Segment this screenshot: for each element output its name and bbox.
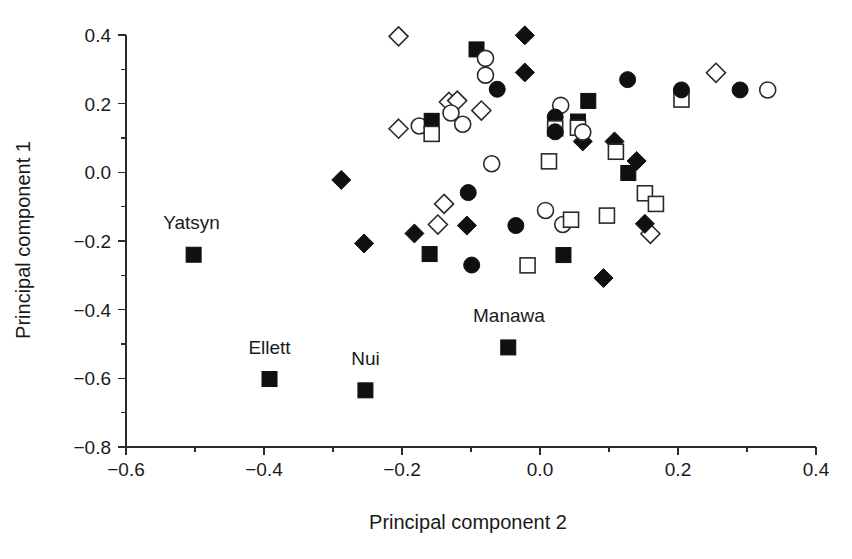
point-label: Manawa: [473, 305, 545, 326]
data-point-filled-diamond: [355, 234, 374, 253]
x-tick-label: −0.2: [383, 459, 421, 480]
data-point-filled-square: [358, 383, 373, 398]
plot-canvas: −0.6−0.4−0.20.00.20.4−0.8−0.6−0.4−0.20.0…: [0, 0, 852, 559]
point-label: Nui: [351, 348, 380, 369]
data-point-filled-diamond: [332, 170, 351, 189]
data-point-filled-diamond: [405, 224, 424, 243]
data-point-filled-square: [422, 247, 437, 262]
data-point-filled-circle: [460, 185, 476, 201]
data-point-filled-circle: [673, 82, 689, 98]
y-tick-label: −0.8: [73, 437, 111, 458]
x-tick-label: 0.0: [527, 459, 553, 480]
data-point-open-circle: [484, 156, 500, 172]
data-point-open-circle: [477, 67, 493, 83]
data-point-filled-circle: [620, 72, 636, 88]
x-tick-label: 0.2: [665, 459, 691, 480]
data-point-filled-circle: [489, 81, 505, 97]
data-point-open-circle: [575, 124, 591, 140]
data-point-open-circle: [455, 116, 471, 132]
data-point-filled-diamond: [515, 63, 534, 82]
data-point-open-circle: [760, 82, 776, 98]
data-point-open-square: [608, 144, 623, 159]
data-point-filled-circle: [508, 218, 524, 234]
scatter-plot-figure: −0.6−0.4−0.20.00.20.4−0.8−0.6−0.4−0.20.0…: [0, 0, 852, 559]
data-point-open-diamond: [435, 194, 454, 213]
data-point-open-diamond: [389, 119, 408, 138]
y-axis-title: Principal component 1: [12, 141, 34, 339]
x-tick-label: 0.4: [803, 459, 830, 480]
data-point-filled-diamond: [594, 269, 613, 288]
x-axis-title: Principal component 2: [369, 511, 567, 533]
y-tick-label: −0.4: [73, 300, 111, 321]
data-point-filled-diamond: [457, 216, 476, 235]
data-point-filled-square: [556, 248, 571, 263]
data-point-open-square: [520, 258, 535, 273]
data-point-filled-square: [186, 247, 201, 262]
data-point-filled-square: [581, 93, 596, 108]
point-label: Yatsyn: [163, 212, 220, 233]
data-point-open-square: [541, 154, 556, 169]
x-tick-label: −0.6: [107, 459, 145, 480]
data-point-filled-circle: [732, 82, 748, 98]
y-tick-label: 0.0: [85, 162, 111, 183]
data-point-open-diamond: [428, 215, 447, 234]
data-point-open-diamond: [472, 101, 491, 120]
y-tick-label: 0.4: [85, 25, 112, 46]
data-point-filled-circle: [547, 124, 563, 140]
data-point-filled-square: [501, 340, 516, 355]
point-label: Ellett: [248, 337, 291, 358]
y-tick-label: 0.2: [85, 94, 111, 115]
data-point-open-diamond: [389, 27, 408, 46]
x-tick-label: −0.4: [245, 459, 283, 480]
data-point-filled-square: [262, 372, 277, 387]
data-point-open-square: [648, 196, 663, 211]
y-tick-label: −0.2: [73, 231, 111, 252]
point-annotations-group: YatsynEllettNuiManawa: [163, 212, 545, 369]
data-point-open-circle: [538, 202, 554, 218]
data-point-open-circle: [477, 50, 493, 66]
data-point-open-diamond: [706, 63, 725, 82]
data-point-open-square: [599, 208, 614, 223]
data-point-filled-circle: [464, 257, 480, 273]
y-tick-label: −0.6: [73, 368, 111, 389]
data-point-open-square: [424, 126, 439, 141]
data-point-open-square: [564, 212, 579, 227]
data-point-filled-diamond: [515, 26, 534, 45]
